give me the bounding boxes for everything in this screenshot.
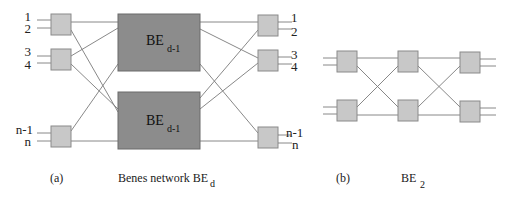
diagram-a: 1 2 3 4 n-1 n <box>16 9 304 189</box>
left-interconnect-wires <box>71 22 118 141</box>
caption-a-title: Benes network BE <box>118 171 208 185</box>
diagram-b: (b) BE 2 <box>323 51 496 190</box>
input-switch-2 <box>51 49 71 70</box>
input-label-4: 4 <box>25 57 32 72</box>
subnetwork-top-subscript: d-1 <box>167 43 180 54</box>
caption-b-tag: (b) <box>336 171 350 185</box>
output-switch-n <box>258 127 278 148</box>
input-label-n: n <box>25 134 32 149</box>
input-switch-1 <box>51 14 71 35</box>
caption-b-subscript: 2 <box>420 179 425 190</box>
output-label-1: 1 <box>291 10 298 25</box>
caption-a-subscript: d <box>210 178 215 189</box>
be2-switch-s3-top <box>460 52 480 73</box>
output-label-2: 2 <box>291 24 298 39</box>
caption-a-tag: (a) <box>50 171 63 185</box>
benes-network-figure: 1 2 3 4 n-1 n <box>0 0 513 203</box>
output-switch-1 <box>258 15 278 36</box>
be2-switch-s1-top <box>337 51 357 72</box>
be2-switch-s1-bottom <box>337 100 357 121</box>
caption-b-title: BE <box>401 171 416 185</box>
be2-switch-s2-top <box>398 51 418 72</box>
subnetwork-bottom-subscript: d-1 <box>167 123 180 134</box>
output-label-4: 4 <box>291 59 298 74</box>
output-label-n: n <box>292 137 299 152</box>
input-wires-left <box>37 20 51 141</box>
input-switch-n <box>51 126 71 147</box>
input-labels: 1 2 3 4 n-1 n <box>16 9 33 149</box>
subnetwork-bottom-label: BE <box>146 113 164 128</box>
subnetwork-top-label: BE <box>146 33 164 48</box>
output-labels: 1 2 3 4 n-1 n <box>286 10 303 152</box>
output-switch-2 <box>258 50 278 71</box>
input-label-2: 2 <box>25 21 32 36</box>
be2-switch-s3-bottom <box>460 101 480 122</box>
right-interconnect-wires <box>200 22 258 141</box>
be2-switch-s2-bottom <box>398 100 418 121</box>
